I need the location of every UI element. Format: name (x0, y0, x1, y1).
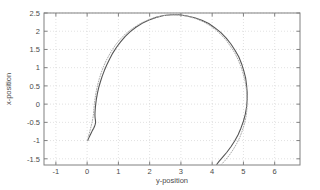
x-tick-label: -1 (53, 167, 60, 176)
x-tick-label: 4 (210, 167, 214, 176)
x-tick-label: 1 (116, 167, 120, 176)
y-tick-label: -0.5 (27, 118, 40, 127)
x-tick-label: 2 (148, 167, 152, 176)
y-tick-label: -1.5 (27, 155, 40, 164)
chart-screenshot: -10123456-1.5-1-0.500.511.522.5 y-positi… (0, 0, 320, 190)
y-axis-title: x-position (4, 73, 13, 105)
y-tick-label: 0 (36, 100, 40, 109)
x-tick-label: 0 (85, 167, 89, 176)
y-tick-label: 2 (36, 27, 40, 36)
x-tick-label: 3 (179, 167, 183, 176)
y-tick-label: 2.5 (30, 9, 40, 18)
x-tick-label: 5 (241, 167, 245, 176)
y-tick-label: 1.5 (30, 45, 40, 54)
y-tick-label: 1 (36, 63, 40, 72)
y-tick-label: -1 (33, 136, 40, 145)
x-axis-title: y-position (156, 176, 188, 185)
figure-background (0, 0, 320, 190)
x-tick-label: 6 (273, 167, 277, 176)
trajectory-plot: -10123456-1.5-1-0.500.511.522.5 y-positi… (0, 0, 320, 190)
y-tick-label: 0.5 (30, 82, 40, 91)
